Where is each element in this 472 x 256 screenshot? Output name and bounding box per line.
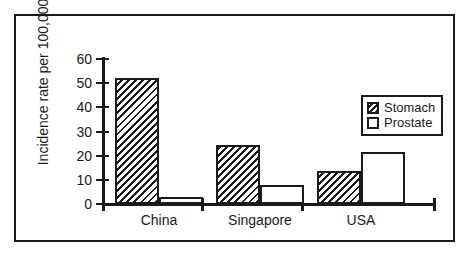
x-category-label-usa: USA	[317, 212, 405, 228]
y-tick-label-30: 30	[62, 125, 92, 139]
bar-singapore-stomach	[216, 145, 260, 204]
y-tick-label-10: 10	[62, 173, 92, 187]
legend-item-stomach: Stomach	[367, 100, 435, 115]
y-tick-label-50-wrap: 50	[62, 76, 92, 90]
hatched-swatch-icon	[367, 102, 379, 114]
x-category-label-china: China	[115, 212, 203, 228]
y-tick-label-50: 50	[62, 76, 92, 90]
y-axis-title: Incidence rate per 100,000	[35, 0, 51, 177]
legend-item-prostate: Prostate	[367, 115, 435, 130]
figure-border: Incidence rate per 100,000 60 50 40 30 2…	[14, 14, 455, 242]
y-tick-label-40: 40	[62, 100, 92, 114]
x-category-label-singapore: Singapore	[216, 212, 304, 228]
bar-china-stomach	[115, 78, 159, 204]
bar-usa-prostate	[361, 152, 405, 204]
legend: Stomach Prostate	[361, 95, 443, 136]
y-tick-label-60-wrap: 60	[62, 52, 92, 66]
legend-label-stomach: Stomach	[384, 101, 435, 114]
bar-singapore-prostate	[260, 185, 304, 204]
bar-usa-stomach	[317, 171, 361, 204]
legend-label-prostate: Prostate	[384, 116, 432, 129]
y-tick-label-40-wrap: 40	[62, 100, 92, 114]
y-tick-label-20-wrap: 20	[62, 149, 92, 163]
y-tick-label-30-wrap: 30	[62, 125, 92, 139]
y-tick-label-10-wrap: 10	[62, 173, 92, 187]
y-tick-label-0: 0	[62, 197, 92, 211]
y-tick-label-60: 60	[62, 52, 92, 66]
empty-swatch-icon	[367, 117, 379, 129]
bar-china-prostate	[159, 197, 203, 204]
figure: Incidence rate per 100,000 60 50 40 30 2…	[0, 0, 472, 256]
y-tick-label-0-wrap: 0	[62, 197, 92, 211]
y-tick-label-20: 20	[62, 149, 92, 163]
